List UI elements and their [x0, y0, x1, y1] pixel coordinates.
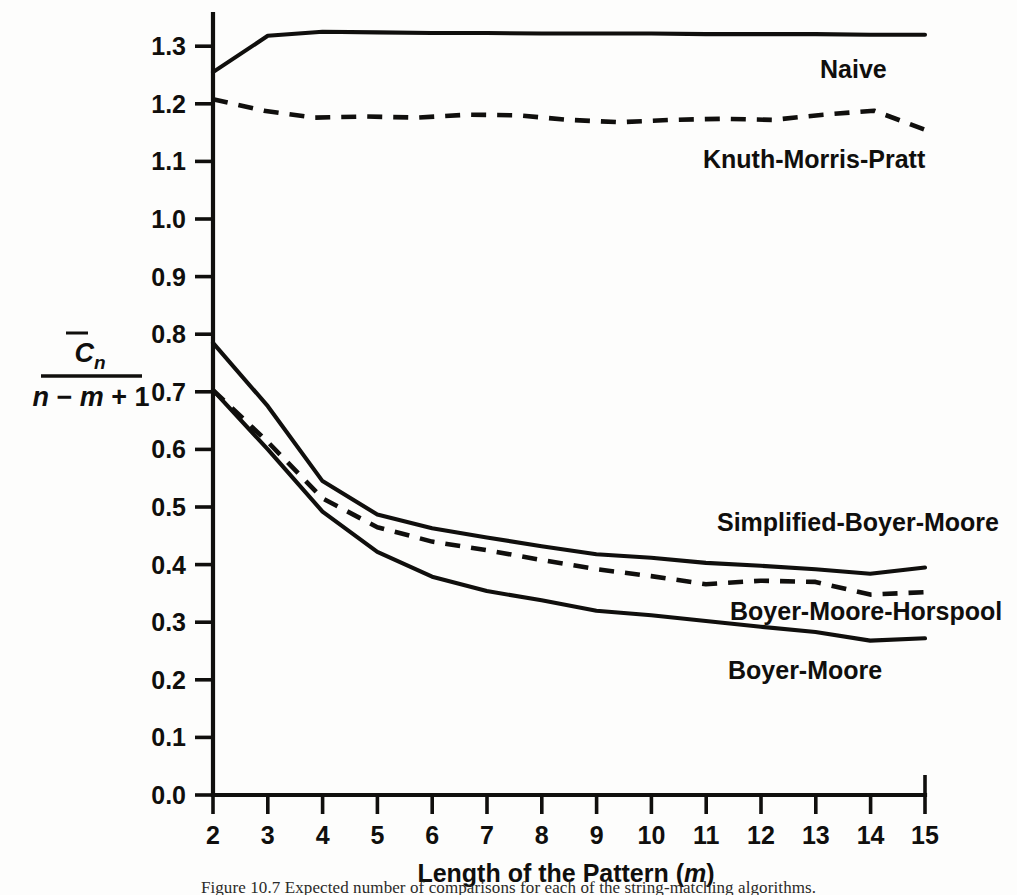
- y-tick-label-6: 0.6: [151, 435, 186, 463]
- series-label-boyer-moore-horspool: Boyer-Moore-Horspool: [730, 597, 1002, 625]
- series-label-knuth-morris-pratt: Knuth-Morris-Pratt: [703, 145, 926, 173]
- y-tick-label-4: 0.4: [151, 551, 186, 579]
- y-tick-label-12: 1.2: [151, 90, 186, 118]
- y-tick-label-10: 1.0: [151, 205, 186, 233]
- series-label-simplified-boyer-moore: Simplified-Boyer-Moore: [717, 508, 999, 536]
- y-tick-label-3: 0.3: [151, 608, 186, 636]
- y-tick-label-11: 1.1: [151, 147, 186, 175]
- x-tick-label-3: 5: [370, 821, 384, 849]
- series-curve-naive: [213, 32, 925, 72]
- y-tick-label-7: 0.7: [151, 378, 186, 406]
- series-label-boyer-moore: Boyer-Moore: [728, 656, 882, 684]
- x-tick-marks: [213, 795, 925, 814]
- line-chart-plot: 0.0 0.1 0.2 0.3 0.4 0.5 0.6 0.7 0.8 0.9 …: [0, 0, 1017, 895]
- x-tick-label-2: 4: [316, 821, 330, 849]
- y-axis-numerator: Cn: [74, 338, 105, 373]
- x-tick-label-9: 11: [693, 821, 720, 849]
- x-tick-label-7: 9: [590, 821, 604, 849]
- series-curve-boyer-moore-horspool: [213, 390, 925, 594]
- x-tick-label-6: 8: [535, 821, 549, 849]
- y-tick-label-9: 0.9: [151, 263, 186, 291]
- x-tick-label-10: 12: [747, 821, 775, 849]
- y-tick-label-8: 0.8: [151, 320, 186, 348]
- y-tick-label-5: 0.5: [151, 493, 186, 521]
- series-curve-knuth-morris-pratt: [213, 99, 925, 130]
- x-tick-label-1: 3: [261, 821, 275, 849]
- series-label-naive: Naive: [820, 55, 887, 83]
- x-tick-label-0: 2: [206, 821, 220, 849]
- x-tick-label-12: 14: [857, 821, 885, 849]
- y-tick-label-0: 0.0: [151, 781, 186, 809]
- y-axis-denominator: n − m + 1: [32, 382, 149, 412]
- y-tick-label-1: 0.1: [151, 723, 186, 751]
- y-axis-title: Cn n − m + 1: [32, 333, 149, 412]
- figure-container: 0.0 0.1 0.2 0.3 0.4 0.5 0.6 0.7 0.8 0.9 …: [0, 0, 1017, 895]
- y-tick-label-13: 1.3: [151, 32, 186, 60]
- y-tick-label-2: 0.2: [151, 666, 186, 694]
- x-tick-label-4: 6: [425, 821, 439, 849]
- x-tick-label-5: 7: [480, 821, 494, 849]
- figure-caption: Figure 10.7 Expected number of compariso…: [0, 878, 1017, 895]
- series-curve-simplified-boyer-moore: [213, 343, 925, 574]
- x-tick-label-8: 10: [637, 821, 665, 849]
- x-tick-label-13: 15: [911, 821, 939, 849]
- y-tick-marks: [195, 46, 213, 795]
- x-tick-label-11: 13: [802, 821, 830, 849]
